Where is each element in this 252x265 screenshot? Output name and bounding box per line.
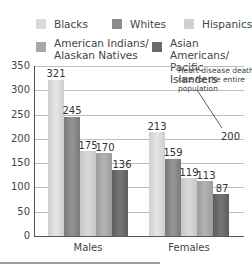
bar-males-asian-americans bbox=[112, 170, 128, 236]
bar-males-blacks bbox=[48, 80, 64, 236]
y-tick-label: 200 bbox=[4, 133, 30, 144]
legend-label: Blacks bbox=[54, 18, 88, 30]
bar-value: 213 bbox=[145, 121, 169, 132]
y-tick-label: 250 bbox=[4, 109, 30, 120]
legend-swatch-hispanics bbox=[184, 19, 194, 29]
legend-swatch-whites bbox=[112, 19, 122, 29]
legend-swatch-asian-americans bbox=[152, 42, 162, 52]
annotation-leader-line bbox=[195, 88, 225, 132]
legend-label: Hispanics bbox=[202, 18, 252, 30]
y-tick-label: 50 bbox=[4, 206, 30, 217]
legend-swatch-american-indians bbox=[36, 42, 46, 52]
bar-males-whites bbox=[64, 117, 80, 236]
legend-label: Whites bbox=[130, 18, 166, 30]
bar-females-hispanics bbox=[181, 178, 197, 236]
legend-item-hispanics: Hispanics bbox=[184, 18, 252, 30]
bar-value: 136 bbox=[110, 159, 134, 170]
bottom-divider bbox=[0, 262, 160, 264]
category-label-males: Males bbox=[58, 242, 118, 253]
bar-males-hispanics bbox=[80, 151, 96, 236]
legend-label: American Indians/ Alaskan Natives bbox=[54, 37, 149, 61]
y-tick-label: 100 bbox=[4, 181, 30, 192]
bar-value: 159 bbox=[161, 147, 185, 158]
legend-swatch-blacks bbox=[36, 19, 46, 29]
bar-chart: Blacks Whites Hispanics American Indians… bbox=[0, 0, 252, 265]
legend-item-whites: Whites bbox=[112, 18, 166, 30]
legend-item-american-indians: American Indians/ Alaskan Natives bbox=[36, 37, 149, 61]
x-axis bbox=[34, 236, 244, 237]
y-tick-label: 0 bbox=[4, 230, 30, 241]
bar-females-asian-americans bbox=[213, 194, 229, 236]
bar-value: 321 bbox=[44, 68, 68, 79]
bar-value: 87 bbox=[210, 183, 234, 194]
bar-value: 170 bbox=[93, 142, 117, 153]
bar-value: 113 bbox=[194, 170, 218, 181]
category-label-females: Females bbox=[159, 242, 219, 253]
legend-item-blacks: Blacks bbox=[36, 18, 88, 30]
y-tick-label: 350 bbox=[4, 60, 30, 71]
bar-value: 245 bbox=[60, 105, 84, 116]
y-tick-label: 300 bbox=[4, 84, 30, 95]
annotation-value: 200 bbox=[221, 131, 240, 142]
y-tick-label: 150 bbox=[4, 157, 30, 168]
y-axis bbox=[34, 66, 35, 237]
